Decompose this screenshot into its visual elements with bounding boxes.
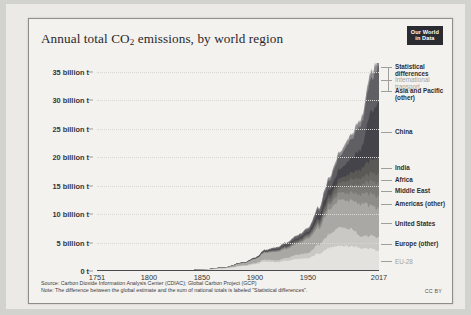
plot-area [97, 63, 379, 271]
y-axis-label: 30 billion t [52, 96, 89, 105]
y-axis-tick [89, 157, 93, 158]
legend-leader-line [381, 180, 392, 181]
legend-item[interactable]: Asia and Pacific (other) [395, 87, 451, 101]
legend-leader-line [381, 261, 392, 262]
chart-legend: Statistical differencesInternational tra… [381, 63, 451, 275]
legend-leader-line [381, 223, 392, 224]
legend-item[interactable]: EU-28 [395, 258, 451, 265]
y-axis-label: 5 billion t [57, 238, 89, 247]
y-axis: 0 t5 billion t10 billion t15 billion t20… [29, 63, 93, 271]
owid-logo: Our World in Data [407, 26, 443, 45]
chart-card: Annual total CO2 emissions, by world reg… [28, 18, 453, 304]
gridline [97, 243, 379, 244]
x-axis-line [97, 270, 379, 271]
y-axis-tick [89, 100, 93, 101]
y-axis-label: 10 billion t [52, 210, 89, 219]
legend-item[interactable]: Europe (other) [395, 240, 451, 247]
legend-leader-line [381, 91, 392, 92]
stacked-area-series [97, 63, 379, 271]
page-background: Annual total CO2 emissions, by world reg… [0, 0, 471, 315]
title-prefix: Annual total CO [41, 31, 130, 46]
area-band [97, 245, 379, 271]
gridline [97, 129, 379, 130]
y-axis-tick [89, 242, 93, 243]
legend-leader-line [381, 67, 392, 68]
y-axis-tick [89, 214, 93, 215]
y-axis-label: 25 billion t [52, 124, 89, 133]
legend-item[interactable]: Middle East [395, 187, 451, 194]
legend-leader-line [381, 191, 392, 192]
legend-item[interactable]: China [395, 128, 451, 135]
y-axis-tick [89, 271, 93, 272]
gridline [97, 214, 379, 215]
legend-leader-line [381, 132, 392, 133]
y-axis-tick [89, 71, 93, 72]
legend-item[interactable]: India [395, 164, 451, 171]
source-note: Source: Carbon Dioxide Information Analy… [41, 280, 307, 287]
legend-leader-line [381, 244, 392, 245]
y-axis-tick [89, 185, 93, 186]
legend-leader-line [381, 80, 392, 81]
legend-leader-line [381, 168, 392, 169]
y-axis-tick [89, 128, 93, 129]
paper-sheet: Annual total CO2 emissions, by world reg… [6, 4, 465, 309]
legend-bracket [388, 80, 389, 91]
y-axis-label: 35 billion t [52, 67, 89, 76]
legend-bracket [388, 67, 389, 80]
page-title: Annual total CO2 emissions, by world reg… [41, 31, 283, 47]
license-label: CC BY [425, 288, 442, 294]
gridline [97, 186, 379, 187]
owid-logo-line2: in Data [411, 35, 439, 41]
y-axis-label: 15 billion t [52, 181, 89, 190]
method-note: Note: The difference between the global … [41, 287, 307, 294]
gridline [97, 100, 379, 101]
footer-notes: Source: Carbon Dioxide Information Analy… [41, 280, 307, 294]
y-axis-label: 20 billion t [52, 153, 89, 162]
title-subscript: 2 [130, 37, 135, 47]
legend-leader-line [381, 204, 392, 205]
legend-item[interactable]: United States [395, 220, 451, 227]
legend-item[interactable]: Africa [395, 176, 451, 183]
legend-item[interactable]: Americas (other) [395, 200, 451, 207]
gridline [97, 72, 379, 73]
gridline [97, 157, 379, 158]
title-suffix: emissions, by world region [134, 31, 283, 46]
y-axis-label: 0 t [80, 267, 89, 276]
